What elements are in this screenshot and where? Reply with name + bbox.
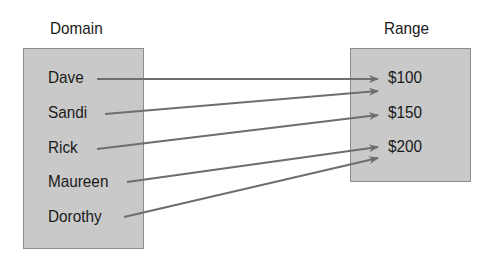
arrow-sandi-100 [105,91,378,114]
mapping-arrows [0,0,498,258]
arrow-maureen-200 [127,147,378,182]
arrow-rick-150 [97,115,378,149]
arrow-dorothy-200 [124,158,378,217]
